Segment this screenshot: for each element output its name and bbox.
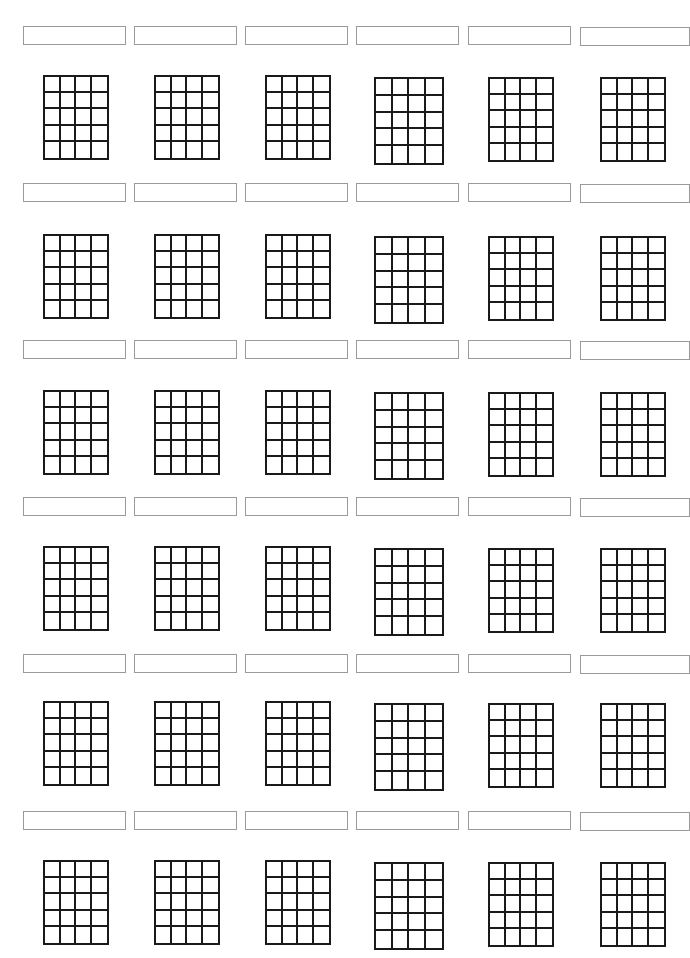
chord-name-field[interactable] (580, 184, 690, 203)
chord-grid (265, 860, 331, 945)
chord-name-field[interactable] (356, 183, 459, 202)
fret-cell (490, 111, 506, 127)
fret-cell (602, 270, 618, 286)
chord-name-field[interactable] (580, 812, 690, 831)
fret-cell (203, 768, 219, 784)
chord-name-field[interactable] (468, 340, 571, 359)
fret-cell (506, 566, 522, 582)
chord-name-field[interactable] (468, 654, 571, 673)
chord-name-field[interactable] (580, 341, 690, 360)
fret-cell (618, 582, 634, 598)
fret-cell (602, 566, 618, 582)
fret-cell (298, 752, 314, 768)
fret-cell (409, 600, 426, 617)
fret-cell (490, 615, 506, 631)
chord-name-field[interactable] (245, 26, 348, 45)
fret-cell (376, 567, 393, 584)
fret-cell (506, 896, 522, 912)
chord-name-field[interactable] (245, 497, 348, 516)
chord-name-field[interactable] (580, 655, 690, 674)
fret-cell (537, 929, 553, 945)
fret-cell (298, 126, 314, 142)
fret-cell (283, 927, 299, 943)
fret-cell (376, 881, 393, 898)
chord-name-field[interactable] (468, 497, 571, 516)
fret-cell (633, 270, 649, 286)
fret-cell (203, 126, 219, 142)
fret-cell (172, 457, 188, 473)
fret-cell (618, 550, 634, 566)
fret-cell (203, 911, 219, 927)
chord-name-field[interactable] (580, 27, 690, 46)
fret-cell (267, 126, 283, 142)
fret-cell (76, 408, 92, 424)
fret-cell (618, 238, 634, 254)
fret-cell (283, 301, 299, 317)
chord-name-field[interactable] (23, 654, 126, 673)
chord-name-field[interactable] (134, 26, 237, 45)
fret-cell (409, 550, 426, 567)
chord-name-field[interactable] (23, 183, 126, 202)
fret-cell (393, 705, 410, 722)
chord-name-field[interactable] (134, 811, 237, 830)
fret-cell (92, 392, 108, 408)
chord-name-field[interactable] (245, 340, 348, 359)
chord-name-field[interactable] (134, 340, 237, 359)
chord-name-field[interactable] (245, 811, 348, 830)
fret-cell (649, 287, 665, 303)
fret-cell (490, 913, 506, 929)
chord-name-field[interactable] (134, 497, 237, 516)
fret-cell (506, 443, 522, 459)
fret-cell (602, 754, 618, 770)
fret-cell (521, 770, 537, 786)
chord-name-field[interactable] (23, 811, 126, 830)
fret-cell (649, 459, 665, 475)
fret-cell (537, 144, 553, 160)
fret-cell (45, 735, 61, 751)
fret-cell (156, 392, 172, 408)
fret-cell (602, 128, 618, 144)
chord-name-field[interactable] (23, 340, 126, 359)
fret-cell (76, 703, 92, 719)
chord-name-field[interactable] (134, 654, 237, 673)
chord-name-field[interactable] (468, 811, 571, 830)
chord-name-field[interactable] (580, 498, 690, 517)
chord-name-field[interactable] (356, 26, 459, 45)
fret-cell (649, 111, 665, 127)
fret-cell (393, 79, 410, 96)
fret-cell (267, 93, 283, 109)
fret-cell (314, 768, 330, 784)
chord-name-field[interactable] (356, 497, 459, 516)
fret-cell (409, 722, 426, 739)
chord-grid (154, 860, 220, 945)
chord-name-field[interactable] (468, 26, 571, 45)
chord-name-field[interactable] (356, 811, 459, 830)
chord-name-field[interactable] (356, 340, 459, 359)
fret-cell (203, 613, 219, 629)
chord-name-field[interactable] (23, 497, 126, 516)
fret-cell (506, 238, 522, 254)
chord-name-field[interactable] (245, 183, 348, 202)
chord-name-field[interactable] (134, 183, 237, 202)
fret-cell (76, 613, 92, 629)
fret-cell (409, 255, 426, 272)
fret-cell (633, 880, 649, 896)
fret-cell (203, 93, 219, 109)
fret-cell (376, 705, 393, 722)
fret-cell (376, 444, 393, 461)
chord-name-field[interactable] (245, 654, 348, 673)
fret-cell (314, 719, 330, 735)
fret-cell (393, 394, 410, 411)
fret-cell (283, 911, 299, 927)
fret-cell (156, 236, 172, 252)
fret-cell (203, 424, 219, 440)
chord-name-field[interactable] (23, 26, 126, 45)
chord-name-field[interactable] (468, 183, 571, 202)
fret-cell (393, 428, 410, 445)
fret-cell (521, 896, 537, 912)
fret-cell (61, 703, 77, 719)
fret-cell (61, 894, 77, 910)
fret-cell (45, 93, 61, 109)
fret-cell (409, 394, 426, 411)
chord-name-field[interactable] (356, 654, 459, 673)
